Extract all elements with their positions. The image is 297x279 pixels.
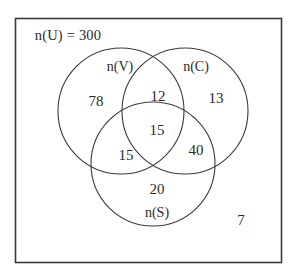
set-label-c: n(C) (183, 60, 209, 74)
region-count-c-and-s: 40 (189, 143, 204, 158)
region-count-v-only: 78 (89, 94, 104, 109)
region-count-v-and-c-and-s: 15 (150, 123, 165, 138)
set-label-v: n(V) (107, 60, 133, 74)
region-count-outside: 7 (237, 213, 245, 228)
set-label-s: n(S) (145, 206, 169, 220)
region-count-s-only: 20 (150, 182, 165, 197)
region-count-v-and-c: 12 (151, 89, 166, 104)
region-count-v-and-s: 15 (119, 148, 134, 163)
venn-diagram-figure: n(U) = 300 n(V) n(C) n(S) 78 12 13 15 15… (0, 0, 297, 279)
universe-label: n(U) = 300 (35, 28, 102, 43)
region-count-c-only: 13 (209, 91, 224, 106)
